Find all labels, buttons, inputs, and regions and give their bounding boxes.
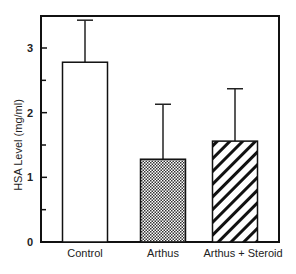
bars xyxy=(63,20,258,242)
x-axis-labels: ControlArthusArthus + Steroid xyxy=(67,247,282,259)
y-tick-label: 0 xyxy=(27,236,33,248)
bar-chart: 0123 ControlArthusArthus + Steroid HSA L… xyxy=(0,0,296,274)
x-category-label: Arthus + Steroid xyxy=(203,247,282,259)
y-axis-ticks: 0123 xyxy=(27,42,47,248)
bar-control xyxy=(63,62,108,242)
y-axis-title: HSA Level (mg/ml) xyxy=(12,99,24,191)
bar-arthus xyxy=(141,159,186,242)
x-category-label: Control xyxy=(67,247,102,259)
bar-arthus-steroid xyxy=(213,141,258,242)
y-tick-label: 2 xyxy=(27,107,33,119)
y-tick-label: 3 xyxy=(27,42,33,54)
y-tick-label: 1 xyxy=(27,171,33,183)
x-category-label: Arthus xyxy=(147,247,179,259)
